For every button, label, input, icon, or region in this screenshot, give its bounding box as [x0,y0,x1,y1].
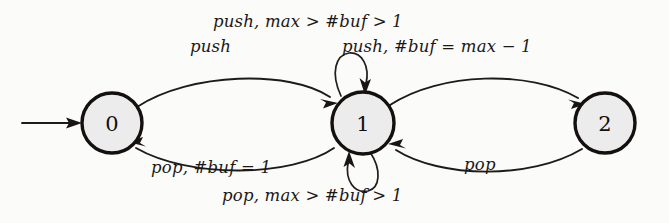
edge-label-self-loop-1-bottom: pop, max > #buf > 1 [222,186,402,205]
self-loop-1-top [335,53,371,96]
state-0-label: 0 [105,112,118,136]
initial-arrow [22,118,82,129]
edge-0-to-1 [137,79,338,109]
state-node-2[interactable]: 2 [575,93,635,153]
edge-label-0-to-1: push [190,37,231,56]
state-node-0[interactable]: 0 [82,93,142,153]
edge-1-to-2 [390,79,586,109]
state-node-1[interactable]: 1 [332,92,394,154]
edge-label-self-loop-1-top: push, max > #buf > 1 [213,12,403,31]
state-1-label: 1 [356,112,369,136]
state-diagram: 0 1 2 push, max > #buf > 1 push push, #b… [0,0,669,223]
state-2-label: 2 [598,112,611,136]
edge-label-1-to-2: push, #buf = max − 1 [342,37,532,56]
edge-label-1-to-0: pop, #buf = 1 [151,158,271,177]
edge-label-2-to-1: pop [464,155,496,174]
